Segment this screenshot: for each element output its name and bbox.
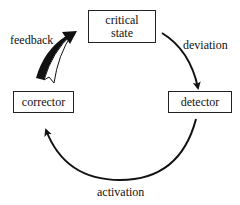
node-critical-state: critical state (88, 10, 156, 43)
detector-label: detector (181, 96, 220, 109)
node-corrector: corrector (13, 91, 74, 113)
critical-state-line1: critical (105, 14, 138, 27)
edge-label-activation: activation (97, 186, 144, 199)
critical-state-line2: state (105, 27, 138, 40)
node-detector: detector (168, 91, 232, 113)
corrector-label: corrector (22, 96, 65, 109)
edge-label-deviation: deviation (183, 39, 228, 52)
edge-label-feedback: feedback (10, 34, 53, 47)
activation-arrow (46, 119, 196, 180)
